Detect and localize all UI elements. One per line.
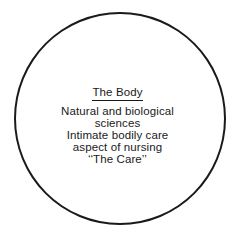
description-line-2: sciences xyxy=(0,117,235,129)
circle-heading: The Body xyxy=(92,86,142,101)
description-line-3: Intimate bodily care xyxy=(0,129,235,141)
description-line-5: ‘‘The Care’’ xyxy=(0,153,235,165)
circle-content: The Body Natural and biological sciences… xyxy=(0,82,235,165)
description-line-1: Natural and biological xyxy=(0,105,235,117)
description-line-4: aspect of nursing xyxy=(0,141,235,153)
